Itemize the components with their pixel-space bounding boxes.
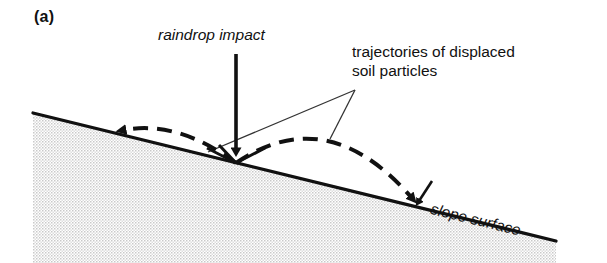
trajectories-label-line2: soil particles <box>352 62 437 80</box>
panel-label: (a) <box>34 8 54 26</box>
figure-panel-a: (a) raindrop impact trajectories of disp… <box>0 0 607 263</box>
trajectories-label-line1: trajectories of displaced <box>352 43 515 61</box>
slope-surface-pointer-arrow <box>419 181 432 201</box>
raindrop-impact-label: raindrop impact <box>158 26 265 44</box>
soil-body <box>33 113 556 263</box>
leader-line-downhill <box>330 90 355 139</box>
